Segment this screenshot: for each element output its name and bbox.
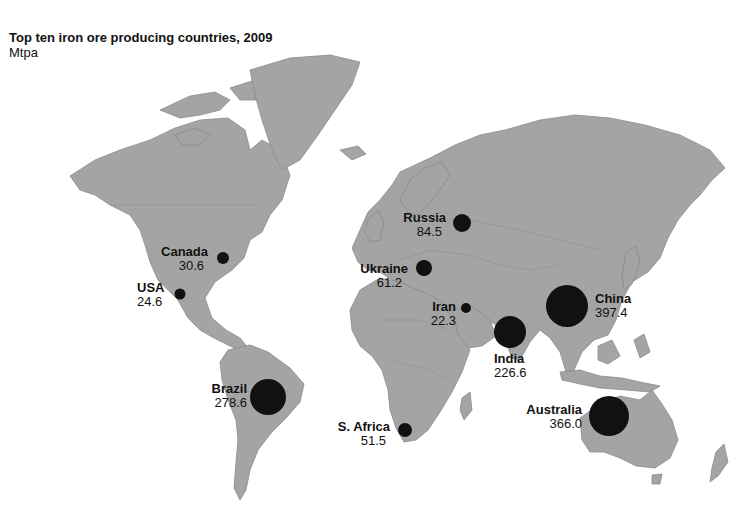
new-zealand — [710, 444, 728, 482]
bubble-india — [494, 316, 526, 348]
country-name: Iran — [416, 300, 456, 314]
bubble-iran — [461, 303, 471, 313]
country-value: 226.6 — [494, 366, 527, 380]
country-name: S. Africa — [320, 420, 390, 434]
country-name: Canada — [148, 245, 208, 259]
arctic-islands — [160, 92, 230, 118]
label-australia: Australia 366.0 — [510, 403, 582, 431]
label-china: China 397.4 — [595, 292, 631, 320]
country-name: India — [494, 352, 527, 366]
bubble-s-africa — [398, 423, 412, 437]
label-iran: Iran 22.3 — [416, 300, 456, 328]
country-name: Brazil — [195, 382, 247, 396]
country-value: 84.5 — [390, 225, 446, 239]
bubble-brazil — [250, 379, 286, 415]
bubble-russia — [453, 214, 471, 232]
country-value: 397.4 — [595, 306, 631, 320]
country-name: Australia — [510, 403, 582, 417]
madagascar — [460, 392, 472, 420]
label-canada: Canada 30.6 — [148, 245, 208, 273]
bubble-china — [546, 285, 588, 327]
country-value: 366.0 — [510, 417, 582, 431]
iceland — [340, 146, 366, 160]
south-america — [220, 345, 304, 500]
label-usa: USA 24.6 — [137, 281, 164, 309]
country-value: 278.6 — [195, 396, 247, 410]
country-value: 61.2 — [348, 276, 408, 290]
indonesia — [560, 370, 660, 392]
north-america — [70, 118, 290, 352]
bubble-australia — [589, 396, 629, 436]
bubble-ukraine — [416, 260, 432, 276]
country-value: 30.6 — [148, 259, 208, 273]
country-name: Russia — [390, 211, 446, 225]
label-russia: Russia 84.5 — [390, 211, 446, 239]
country-value: 22.3 — [416, 314, 456, 328]
country-value: 24.6 — [137, 295, 164, 309]
country-name: China — [595, 292, 631, 306]
country-name: Ukraine — [348, 262, 408, 276]
label-brazil: Brazil 278.6 — [195, 382, 247, 410]
label-india: India 226.6 — [494, 352, 527, 380]
label-s-africa: S. Africa 51.5 — [320, 420, 390, 448]
bubble-canada — [217, 252, 229, 264]
country-value: 51.5 — [320, 434, 390, 448]
bubble-usa — [175, 289, 186, 300]
label-ukraine: Ukraine 61.2 — [348, 262, 408, 290]
country-name: USA — [137, 281, 164, 295]
